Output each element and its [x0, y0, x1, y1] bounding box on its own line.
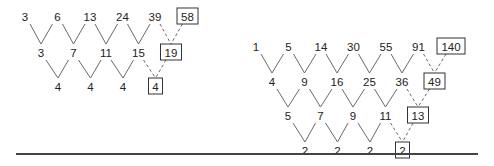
sequence-value: 36 — [396, 76, 409, 88]
value-text: 14 — [315, 41, 328, 53]
sequence-value: 1 — [253, 41, 259, 53]
connector-line — [402, 54, 414, 73]
sequence-value: 24 — [116, 11, 129, 23]
sequence-value: 4 — [55, 81, 62, 93]
connector-line — [338, 123, 349, 142]
connector-line — [424, 54, 435, 73]
sequence-value: 55 — [380, 41, 393, 53]
connector-line — [277, 89, 288, 107]
sequence-value: 11 — [100, 47, 112, 59]
value-text: 9 — [301, 76, 307, 88]
value-text: 55 — [380, 41, 393, 53]
sequence-value: 5 — [285, 110, 291, 122]
connector-line — [435, 54, 447, 73]
value-text: 36 — [396, 76, 409, 88]
sequence-value: 4 — [269, 76, 276, 88]
value-text: 91 — [412, 41, 425, 53]
sequence-value: 3 — [38, 47, 44, 59]
connector-line — [144, 60, 156, 78]
predicted-value-box: 58 — [177, 8, 198, 24]
value-text: 140 — [441, 41, 460, 53]
value-text: 16 — [331, 76, 344, 88]
sequence-value: 9 — [301, 76, 307, 88]
connector-line — [106, 24, 118, 44]
value-text: 39 — [149, 11, 162, 23]
connector-line — [310, 89, 321, 107]
connector-line — [358, 123, 370, 142]
sequence-value: 4 — [120, 81, 127, 93]
value-text: 5 — [285, 110, 291, 122]
connector-line — [171, 24, 183, 44]
predicted-value-box: 49 — [424, 73, 445, 89]
sequence-value: 13 — [84, 11, 97, 23]
connector-line — [293, 123, 305, 142]
value-text: 49 — [428, 76, 441, 88]
sequence-value: 7 — [70, 47, 76, 59]
connector-line — [294, 54, 305, 73]
value-text: 4 — [120, 81, 127, 93]
value-text: 15 — [132, 47, 145, 59]
connector-line — [58, 60, 69, 78]
value-text: 9 — [350, 110, 356, 122]
connector-line — [391, 123, 403, 142]
connector-line — [403, 123, 414, 142]
connector-line — [391, 54, 402, 73]
connector-line — [321, 89, 333, 107]
sequence-value: 9 — [350, 110, 356, 122]
connector-line — [370, 123, 381, 142]
value-text: 19 — [165, 47, 178, 59]
connector-line — [288, 89, 300, 107]
connector-line — [30, 24, 41, 44]
sequence-value: 14 — [315, 41, 328, 53]
connector-line — [386, 89, 398, 107]
value-text: 58 — [181, 11, 194, 23]
connector-line — [160, 24, 171, 44]
value-text: 4 — [55, 81, 62, 93]
value-text: 3 — [38, 47, 44, 59]
value-text: 1 — [253, 41, 259, 53]
predicted-value-box: 140 — [437, 38, 465, 54]
sequence-value: 3 — [22, 11, 28, 23]
value-text: 11 — [100, 47, 112, 59]
connector-line — [359, 54, 370, 73]
value-text: 13 — [412, 110, 425, 122]
value-text: 13 — [84, 11, 97, 23]
sequence-value: 91 — [412, 41, 425, 53]
connector-line — [272, 54, 284, 73]
value-text: 7 — [317, 110, 323, 122]
sequence-value: 7 — [317, 110, 323, 122]
value-text: 4 — [152, 81, 159, 93]
number-nodes: 3613243958371115194444151430559114049162… — [22, 8, 465, 158]
connector-line — [79, 60, 91, 78]
sequence-value: 5 — [285, 41, 291, 53]
value-text: 30 — [347, 41, 360, 53]
connector-line — [128, 24, 139, 44]
sequence-value: 11 — [380, 110, 392, 122]
sequence-value: 6 — [54, 11, 60, 23]
connector-line — [370, 54, 382, 73]
value-text: 11 — [380, 110, 392, 122]
difference-table-diagram: 3613243958371115194444151430559114049162… — [0, 0, 494, 166]
predicted-value-box: 2 — [396, 142, 410, 158]
connector-line — [74, 24, 86, 44]
connector-line — [407, 89, 418, 107]
value-text: 6 — [54, 11, 60, 23]
connector-line — [305, 54, 317, 73]
connector-line — [46, 60, 58, 78]
predicted-value-box: 4 — [149, 78, 163, 94]
connector-line — [139, 24, 151, 44]
connector-line — [91, 60, 102, 78]
connector-line — [342, 89, 353, 107]
connector-line — [418, 89, 430, 107]
connector-line — [326, 54, 337, 73]
sequence-value: 4 — [87, 81, 94, 93]
sequence-value: 25 — [363, 76, 376, 88]
connector-line — [111, 60, 123, 78]
value-text: 4 — [87, 81, 94, 93]
sequence-value: 39 — [149, 11, 162, 23]
predicted-value-box: 19 — [161, 44, 182, 60]
sequence-value: 30 — [347, 41, 360, 53]
connector-line — [156, 60, 167, 78]
connector-line — [41, 24, 53, 44]
value-text: 25 — [363, 76, 376, 88]
